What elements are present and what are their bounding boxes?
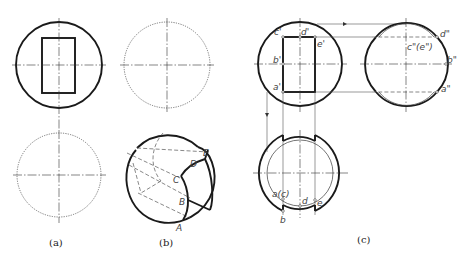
arrow-down-icon (265, 113, 269, 117)
point-label-C: C (173, 175, 180, 185)
arrow-right-icon (343, 22, 347, 26)
point-e (314, 199, 317, 202)
hidden-edge-1 (137, 148, 209, 152)
label-a-c: a(c) (272, 189, 290, 199)
sphere-outline-left-arc (365, 37, 376, 92)
inner-arc-top (283, 137, 315, 141)
point-d-double-prime (436, 36, 439, 39)
point-a-double-prime (436, 91, 439, 94)
panel-c: c' d' e' b' a' d" (253, 18, 457, 245)
hidden-arc-back (153, 133, 163, 181)
point-d (299, 205, 302, 208)
label-d-double-prime: d" (440, 29, 450, 39)
slot-inner-top-arc (379, 24, 434, 37)
point-label-A: A (175, 223, 182, 233)
label-d-prime: d' (301, 27, 309, 37)
label-ce-double-prime: c"(e") (407, 42, 433, 52)
hidden-edge-6 (133, 163, 141, 193)
point-label-D: D (190, 159, 197, 169)
panel-b-side-view (120, 18, 214, 112)
panel-a-front-view (12, 18, 106, 130)
panel-a-top-view (13, 130, 106, 223)
sphere-outline-lower (126, 147, 214, 223)
caption-c: (c) (357, 234, 371, 245)
caption-b: (b) (159, 237, 173, 248)
point-label-B: B (179, 197, 185, 207)
point-b-prime (282, 63, 285, 66)
panel-c-side-view: d" c"(e") b" a" (360, 18, 457, 112)
label-e: e (317, 198, 323, 208)
slot-rectangle (283, 37, 315, 92)
label-b-double-prime: b" (447, 55, 457, 65)
label-b-prime: b' (273, 55, 281, 65)
label-c-prime: c' (274, 27, 281, 37)
panel-b: A B C D E (b) (120, 18, 215, 248)
panel-c-front-view: c' d' e' b' a' (254, 18, 347, 112)
panel-a: (a) (12, 18, 106, 248)
sphere-slot-projection-figure: (a) A (0, 0, 467, 258)
point-b (282, 210, 285, 213)
sphere-outline-top-arc (137, 135, 198, 148)
slot-inner-bottom-arc (379, 92, 434, 105)
hidden-edge-5 (141, 181, 161, 193)
panel-b-isometric-sphere: A B C D E (126, 133, 214, 233)
caption-a: (a) (49, 237, 63, 248)
label-e-prime: e' (317, 39, 325, 49)
label-d: d (302, 196, 308, 206)
sphere-outline-top-arc (376, 23, 437, 37)
point-c-prime (282, 36, 285, 39)
label-a-prime: a' (273, 82, 281, 92)
point-label-E: E (203, 148, 209, 158)
label-b: b (280, 215, 286, 225)
label-a-double-prime: a" (441, 84, 451, 94)
sphere-outline-bottom-arc (376, 92, 437, 106)
slot-rectangle (42, 38, 75, 93)
